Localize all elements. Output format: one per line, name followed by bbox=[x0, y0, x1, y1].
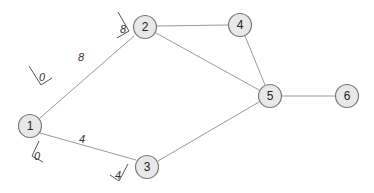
node-1[interactable]: 1 bbox=[19, 115, 42, 138]
node-5[interactable]: 5 bbox=[259, 85, 282, 108]
node-6-label: 6 bbox=[344, 89, 351, 103]
edge-1-2-weight-label: 8 bbox=[78, 51, 85, 63]
node-2-label: 2 bbox=[142, 20, 149, 34]
node-2[interactable]: 2 bbox=[134, 16, 157, 39]
edge-1-3-end-label: 4 bbox=[115, 169, 121, 181]
edge-2-5 bbox=[156, 33, 259, 90]
edge-2-4 bbox=[157, 25, 228, 26]
edge-1-3 bbox=[40, 133, 136, 160]
node-1-label: 1 bbox=[27, 119, 34, 133]
node-3-label: 3 bbox=[144, 160, 151, 174]
node-4-label: 4 bbox=[237, 18, 244, 32]
edge-1-3-weight-label: 4 bbox=[79, 133, 85, 145]
node-5-label: 5 bbox=[267, 89, 274, 103]
edge-1-3-start-label: 0 bbox=[34, 150, 41, 162]
edge-1-2 bbox=[40, 36, 134, 118]
edge-1-2-start-label: 0 bbox=[39, 71, 46, 83]
edge-1-2-end-label: 8 bbox=[120, 23, 127, 35]
graph-diagram: 0 8 8 0 4 4 1 2 3 4 5 6 bbox=[0, 0, 374, 193]
edge-3-5 bbox=[158, 102, 259, 161]
node-3[interactable]: 3 bbox=[136, 156, 159, 179]
node-6[interactable]: 6 bbox=[336, 85, 359, 108]
edge-4-5 bbox=[245, 36, 265, 85]
node-4[interactable]: 4 bbox=[229, 14, 252, 37]
